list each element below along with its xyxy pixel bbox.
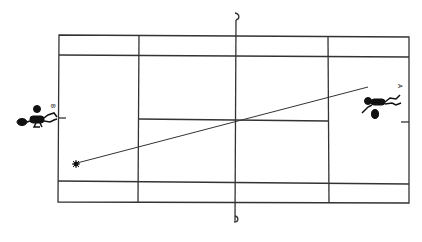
center-service-line xyxy=(139,119,328,121)
tennis-court-diagram: B A xyxy=(0,0,422,242)
net-line xyxy=(235,20,236,221)
court-outline xyxy=(58,35,409,203)
ball-icon xyxy=(72,160,80,168)
player-a-label: A xyxy=(397,84,404,89)
singles-sideline-bottom xyxy=(58,181,409,184)
player-b-icon xyxy=(17,106,57,128)
ball-trajectory xyxy=(77,87,368,163)
court-lines xyxy=(58,13,409,222)
net-post-top xyxy=(235,13,239,20)
singles-sideline-top xyxy=(59,55,409,57)
player-a-icon xyxy=(362,95,401,119)
service-line-right xyxy=(328,37,329,203)
service-line-left xyxy=(138,35,139,202)
player-b-label: B xyxy=(50,104,57,108)
